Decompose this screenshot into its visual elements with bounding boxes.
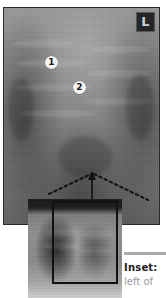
caption-body-text: left of xyxy=(124,276,166,287)
rib-shadow xyxy=(90,46,150,53)
inset-radiograph-panel xyxy=(28,199,122,298)
region-of-interest-rectangle xyxy=(52,201,118,284)
vascular-shadow xyxy=(8,78,34,140)
callout-marker-2: 2 xyxy=(73,81,86,94)
callout-marker-1: 1 xyxy=(45,56,58,69)
vascular-shadow xyxy=(58,136,112,178)
caption-divider xyxy=(124,252,166,255)
rib-shadow xyxy=(12,40,76,47)
main-radiograph-panel: L 1 2 xyxy=(3,7,160,225)
caption: Inset: left of xyxy=(124,262,166,287)
laterality-marker-icon: L xyxy=(136,12,155,32)
vascular-shadow xyxy=(126,74,154,140)
figure-container: L 1 2 Inset: left of xyxy=(0,0,166,298)
caption-lead-label: Inset: xyxy=(124,262,166,273)
